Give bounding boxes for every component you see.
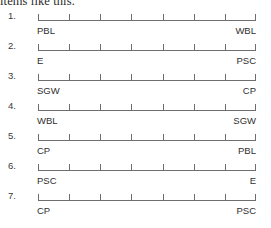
scale-tick[interactable] xyxy=(255,74,256,81)
scale-item[interactable]: 5.CPPBL xyxy=(0,131,271,161)
scale-tick[interactable] xyxy=(131,194,132,201)
scale-anchor-right: WBL xyxy=(156,25,256,36)
scale-tick[interactable] xyxy=(255,194,256,201)
scale-tick[interactable] xyxy=(225,44,226,51)
scale-item[interactable]: 2.EPSC xyxy=(0,41,271,71)
scale-item[interactable]: 1.PBLWBL xyxy=(0,11,271,41)
scale-anchor-left: WBL xyxy=(37,115,58,126)
scale-tick[interactable] xyxy=(100,74,101,81)
scale-tick[interactable] xyxy=(163,194,164,201)
scale-tick[interactable] xyxy=(225,164,226,171)
scale-anchor-right: PSC xyxy=(156,55,256,66)
scale-track[interactable] xyxy=(38,170,256,171)
scale-tick[interactable] xyxy=(100,134,101,141)
scale-item-number: 6. xyxy=(8,161,26,171)
scale-tick[interactable] xyxy=(194,134,195,141)
scale-tick[interactable] xyxy=(225,194,226,201)
scale-tick[interactable] xyxy=(163,134,164,141)
scale-tick[interactable] xyxy=(163,74,164,81)
scale-track[interactable] xyxy=(38,200,256,201)
scale-tick[interactable] xyxy=(225,74,226,81)
scale-track[interactable] xyxy=(38,20,256,21)
scale-anchor-right: PBL xyxy=(156,145,256,156)
scale-tick[interactable] xyxy=(69,134,70,141)
scale-tick[interactable] xyxy=(38,104,39,111)
scale-tick[interactable] xyxy=(38,44,39,51)
scale-track[interactable] xyxy=(38,80,256,81)
scale-anchor-left: CP xyxy=(37,205,50,216)
scale-tick[interactable] xyxy=(225,134,226,141)
scale-tick[interactable] xyxy=(131,14,132,21)
scale-anchor-right: SGW xyxy=(156,115,256,126)
scale-tick[interactable] xyxy=(255,104,256,111)
scale-tick[interactable] xyxy=(255,134,256,141)
scale-item-number: 5. xyxy=(8,131,26,141)
scale-track[interactable] xyxy=(38,140,256,141)
scale-item-number: 3. xyxy=(8,71,26,81)
scale-anchor-left: CP xyxy=(37,145,50,156)
scale-tick[interactable] xyxy=(131,104,132,111)
scale-item-number: 2. xyxy=(8,41,26,51)
scale-tick[interactable] xyxy=(100,104,101,111)
scale-tick[interactable] xyxy=(255,14,256,21)
scale-tick[interactable] xyxy=(255,164,256,171)
scale-tick[interactable] xyxy=(131,134,132,141)
scale-track[interactable] xyxy=(38,110,256,111)
scale-item[interactable]: 4.WBLSGW xyxy=(0,101,271,131)
header-text: items like this. xyxy=(0,0,75,7)
scale-tick[interactable] xyxy=(194,194,195,201)
scale-anchor-right: PSC xyxy=(156,205,256,216)
scale-tick[interactable] xyxy=(131,74,132,81)
scale-tick[interactable] xyxy=(100,164,101,171)
scale-list: 1.PBLWBL2.EPSC3.SGWCP4.WBLSGW5.CPPBL6.PS… xyxy=(0,11,271,221)
scale-item-number: 7. xyxy=(8,191,26,201)
scale-tick[interactable] xyxy=(194,44,195,51)
scale-anchor-left: PBL xyxy=(37,25,55,36)
scale-tick[interactable] xyxy=(194,74,195,81)
scale-tick[interactable] xyxy=(225,104,226,111)
scale-tick[interactable] xyxy=(38,164,39,171)
scale-tick[interactable] xyxy=(69,194,70,201)
scale-tick[interactable] xyxy=(100,194,101,201)
scale-tick[interactable] xyxy=(131,44,132,51)
scale-tick[interactable] xyxy=(69,164,70,171)
scale-tick[interactable] xyxy=(69,104,70,111)
scale-tick[interactable] xyxy=(163,14,164,21)
scale-item[interactable]: 7.CPPSC xyxy=(0,191,271,221)
scale-anchor-right: CP xyxy=(156,85,256,96)
scale-tick[interactable] xyxy=(194,164,195,171)
scale-tick[interactable] xyxy=(255,44,256,51)
scale-anchor-left: PSC xyxy=(37,175,57,186)
scale-tick[interactable] xyxy=(225,14,226,21)
scale-tick[interactable] xyxy=(69,44,70,51)
scale-anchor-left: SGW xyxy=(37,85,60,96)
scale-anchor-right: E xyxy=(156,175,256,186)
scale-item-number: 1. xyxy=(8,11,26,21)
scale-tick[interactable] xyxy=(163,104,164,111)
scale-tick[interactable] xyxy=(194,104,195,111)
scale-tick[interactable] xyxy=(38,14,39,21)
scale-tick[interactable] xyxy=(69,74,70,81)
scale-item[interactable]: 6.PSCE xyxy=(0,161,271,191)
scale-item[interactable]: 3.SGWCP xyxy=(0,71,271,101)
scale-tick[interactable] xyxy=(38,134,39,141)
scale-tick[interactable] xyxy=(163,164,164,171)
scale-tick[interactable] xyxy=(38,194,39,201)
scale-tick[interactable] xyxy=(131,164,132,171)
scale-tick[interactable] xyxy=(163,44,164,51)
scale-anchor-left: E xyxy=(37,55,43,66)
scale-tick[interactable] xyxy=(38,74,39,81)
scale-item-number: 4. xyxy=(8,101,26,111)
scale-tick[interactable] xyxy=(100,14,101,21)
scale-tick[interactable] xyxy=(194,14,195,21)
scale-tick[interactable] xyxy=(100,44,101,51)
scale-track[interactable] xyxy=(38,50,256,51)
scale-tick[interactable] xyxy=(69,14,70,21)
